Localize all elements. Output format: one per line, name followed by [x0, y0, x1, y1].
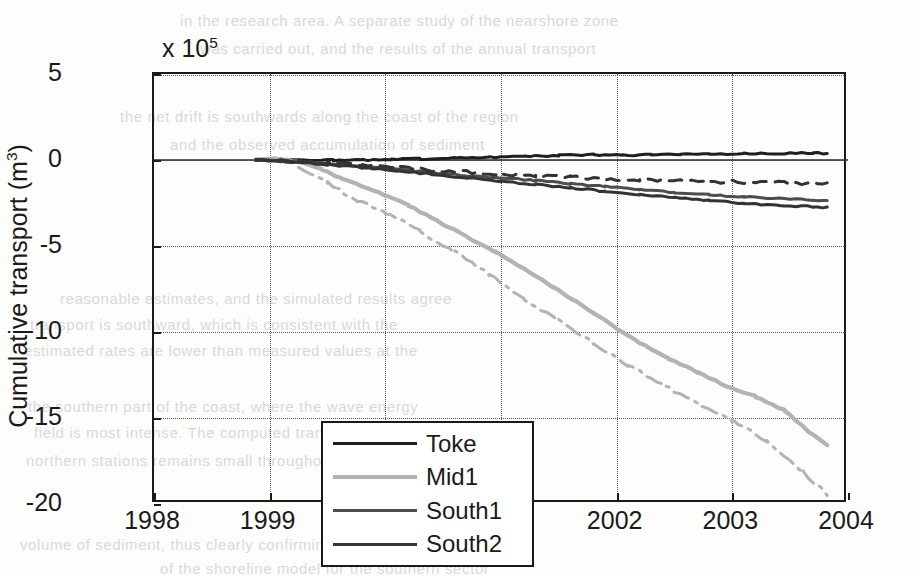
legend-label: Mid1 [426, 465, 478, 489]
legend[interactable]: TokeMid1South1South2 [321, 421, 534, 567]
y-axis-title: Cumulative transport (m3) [3, 144, 32, 428]
legend-label: South2 [426, 532, 502, 556]
legend-swatch-toke [333, 442, 417, 445]
legend-label: Toke [426, 432, 477, 456]
x-tick-label: 1998 [124, 506, 180, 535]
y-axis-title-exponent: 3 [3, 152, 20, 161]
x-tick-label: 2003 [703, 506, 759, 535]
plot-area: TokeMid1South1South2 [152, 72, 846, 502]
x-tick-label: 2002 [587, 506, 643, 535]
y-axis-multiplier-exponent: 5 [209, 34, 218, 51]
legend-item-south2[interactable]: South2 [323, 529, 532, 559]
y-tick-label: -10 [26, 316, 62, 345]
y-tick-label: 0 [48, 144, 62, 173]
legend-item-toke[interactable]: Toke [323, 429, 532, 459]
y-tick-label: -15 [26, 402, 62, 431]
y-axis-multiplier-prefix: x 10 [162, 34, 209, 62]
bleed-line: was carried out, and the results of the … [200, 40, 596, 57]
legend-swatch-south2 [333, 543, 417, 546]
x-axis-tick [848, 493, 850, 500]
legend-item-mid1[interactable]: Mid1 [323, 462, 532, 492]
bleed-line: in the research area. A separate study o… [180, 12, 619, 29]
y-axis-tick [154, 504, 161, 506]
legend-label: South1 [426, 499, 502, 523]
legend-swatch-mid1 [333, 475, 417, 479]
y-tick-label: -20 [26, 488, 62, 517]
legend-swatch-south1 [333, 509, 417, 512]
series-line-mid1 [256, 158, 827, 445]
x-tick-label: 2004 [818, 506, 874, 535]
y-axis-title-base: Cumulative transport (m [4, 161, 32, 428]
y-axis-multiplier: x 105 [162, 34, 218, 63]
y-tick-label: 5 [48, 58, 62, 87]
y-tick-label: -5 [40, 230, 62, 259]
x-tick-label: 1999 [240, 506, 296, 535]
y-axis-title-tail: ) [4, 144, 32, 152]
legend-item-south1[interactable]: South1 [323, 496, 532, 526]
